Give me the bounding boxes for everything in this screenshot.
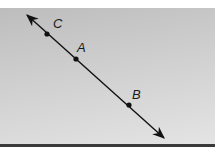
line-diagram: C A B: [0, 0, 215, 147]
point-a-label: A: [76, 40, 86, 55]
point-c-label: C: [53, 16, 63, 31]
point-c: [44, 31, 49, 36]
point-a: [73, 56, 78, 61]
point-b: [126, 102, 131, 107]
point-b-label: B: [132, 87, 141, 102]
